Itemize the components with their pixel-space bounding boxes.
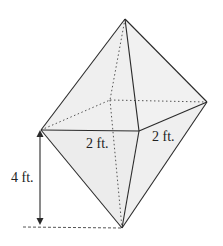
faces (41, 19, 207, 228)
height-dimension-arrow (37, 130, 44, 225)
baseline-dashed (23, 227, 122, 228)
height-label: 4 ft. (11, 171, 34, 185)
arrow-down-icon (37, 218, 44, 225)
octahedron-diagram (0, 0, 223, 246)
base-front-label: 2 ft. (86, 137, 109, 151)
face-top-left-front (41, 19, 139, 131)
base-side-label: 2 ft. (152, 130, 175, 144)
